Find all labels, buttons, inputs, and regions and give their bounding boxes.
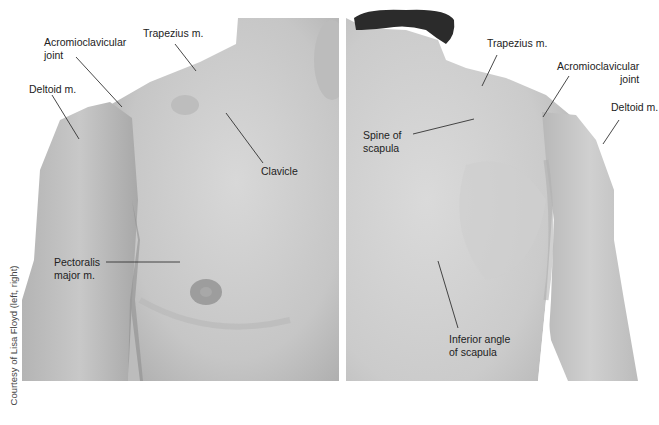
photo-credit: Courtesy of Lisa Floyd (left, right): [8, 261, 19, 411]
label-trapezius: Trapezius m.: [143, 27, 203, 40]
label-line: scapula: [363, 142, 402, 155]
label-line: Deltoid m.: [29, 83, 76, 96]
label-line: Trapezius m.: [143, 27, 203, 40]
label-acromioclavicular-joint: Acromioclavicular joint: [557, 60, 639, 86]
label-acromioclavicular-joint: Acromioclavicular joint: [44, 36, 126, 62]
posterior-body-illustration: [346, 0, 659, 381]
label-line: Trapezius m.: [487, 37, 547, 50]
label-line: Clavicle: [261, 165, 298, 178]
label-inferior-angle-of-scapula: Inferior angle of scapula: [449, 333, 510, 359]
label-clavicle: Clavicle: [261, 165, 298, 178]
label-deltoid: Deltoid m.: [29, 83, 76, 96]
label-line: Pectoralis: [54, 256, 100, 269]
label-deltoid: Deltoid m.: [611, 101, 658, 114]
anterior-shoulder-photo: Acromioclavicular joint Trapezius m. Del…: [0, 0, 339, 381]
label-line: Acromioclavicular: [557, 60, 639, 73]
label-line: joint: [557, 73, 639, 86]
label-line: major m.: [54, 269, 100, 282]
label-line: Deltoid m.: [611, 101, 658, 114]
label-pectoralis-major: Pectoralis major m.: [54, 256, 100, 282]
label-line: joint: [44, 49, 126, 62]
posterior-shoulder-photo: Trapezius m. Acromioclavicular joint Del…: [346, 0, 659, 381]
label-line: Inferior angle: [449, 333, 510, 346]
label-spine-of-scapula: Spine of scapula: [363, 129, 402, 155]
label-line: Spine of: [363, 129, 402, 142]
label-trapezius: Trapezius m.: [487, 37, 547, 50]
label-line: of scapula: [449, 346, 510, 359]
label-line: Acromioclavicular: [44, 36, 126, 49]
